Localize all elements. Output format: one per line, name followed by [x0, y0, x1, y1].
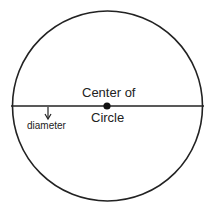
center-point [103, 102, 110, 109]
circle-diagram [0, 0, 215, 207]
center-label-line1: Center of [82, 85, 135, 100]
diameter-arrow-icon [45, 107, 51, 119]
diameter-label: diameter [27, 120, 66, 131]
center-label-line2: Circle [91, 110, 124, 125]
